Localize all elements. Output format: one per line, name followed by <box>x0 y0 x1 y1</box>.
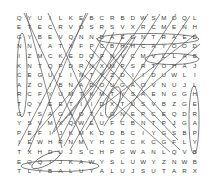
grid-cell[interactable]: R <box>138 61 148 71</box>
grid-cell[interactable]: G <box>159 138 169 148</box>
grid-cell[interactable]: G <box>179 99 189 109</box>
grid-cell[interactable]: D <box>97 99 107 109</box>
grid-cell[interactable]: Y <box>148 157 158 167</box>
grid-cell[interactable]: C <box>128 51 138 61</box>
grid-cell[interactable]: L <box>55 13 65 23</box>
grid-cell[interactable]: J <box>169 118 179 128</box>
grid-cell[interactable]: G <box>55 109 65 119</box>
grid-cell[interactable]: U <box>76 166 86 176</box>
grid-cell[interactable]: R <box>97 23 107 33</box>
grid-cell[interactable]: N <box>86 61 96 71</box>
grid-cell[interactable]: U <box>45 71 55 81</box>
grid-cell[interactable]: Q <box>45 61 55 71</box>
grid-cell[interactable]: B <box>190 157 200 167</box>
grid-cell[interactable]: A <box>138 147 148 157</box>
grid-cell[interactable]: A <box>76 80 86 90</box>
grid-cell[interactable]: I <box>66 71 76 81</box>
grid-cell[interactable]: J <box>55 157 65 167</box>
grid-cell[interactable]: M <box>159 13 169 23</box>
grid-cell[interactable]: Q <box>24 157 34 167</box>
grid-cell[interactable]: O <box>159 61 169 71</box>
grid-cell[interactable]: E <box>35 23 45 33</box>
grid-cell[interactable]: C <box>148 138 158 148</box>
grid-cell[interactable]: U <box>128 157 138 167</box>
grid-cell[interactable]: C <box>117 118 127 128</box>
grid-cell[interactable]: L <box>66 166 76 176</box>
grid-cell[interactable]: L <box>55 71 65 81</box>
grid-cell[interactable]: W <box>179 157 189 167</box>
grid-cell[interactable]: C <box>86 147 96 157</box>
grid-cell[interactable]: T <box>24 23 34 33</box>
grid-cell[interactable]: W <box>128 147 138 157</box>
grid-cell[interactable]: G <box>159 128 169 138</box>
grid-cell[interactable]: W <box>138 157 148 167</box>
grid-cell[interactable]: P <box>107 147 117 157</box>
grid-cell[interactable]: O <box>35 80 45 90</box>
grid-cell[interactable]: A <box>45 109 55 119</box>
grid-cell[interactable]: F <box>169 138 179 148</box>
grid-cell[interactable]: X <box>66 42 76 52</box>
grid-cell[interactable]: E <box>66 51 76 61</box>
grid-cell[interactable]: V <box>35 118 45 128</box>
grid-cell[interactable]: Y <box>35 42 45 52</box>
grid-cell[interactable]: N <box>24 61 34 71</box>
grid-cell[interactable]: P <box>190 128 200 138</box>
grid-cell[interactable]: U <box>107 80 117 90</box>
grid-cell[interactable]: L <box>159 51 169 61</box>
grid-cell[interactable]: L <box>190 80 200 90</box>
grid-cell[interactable]: Y <box>24 32 34 42</box>
grid-cell[interactable]: T <box>107 90 117 100</box>
grid-cell[interactable]: E <box>128 109 138 119</box>
grid-cell[interactable]: D <box>107 128 117 138</box>
grid-cell[interactable]: G <box>128 32 138 42</box>
grid-cell[interactable]: P <box>86 42 96 52</box>
grid-cell[interactable]: F <box>35 90 45 100</box>
grid-cell[interactable]: Q <box>66 32 76 42</box>
grid-cell[interactable]: B <box>107 42 117 52</box>
grid-cell[interactable]: G <box>35 71 45 81</box>
grid-cell[interactable]: Z <box>159 157 169 167</box>
grid-cell[interactable]: D <box>66 61 76 71</box>
grid-cell[interactable]: S <box>169 128 179 138</box>
grid-cell[interactable]: N <box>24 42 34 52</box>
grid-cell[interactable]: S <box>86 23 96 33</box>
grid-cell[interactable]: V <box>148 80 158 90</box>
grid-cell[interactable]: T <box>14 99 24 109</box>
grid-cell[interactable]: W <box>76 118 86 128</box>
grid-cell[interactable]: U <box>148 166 158 176</box>
grid-cell[interactable]: B <box>190 147 200 157</box>
grid-cell[interactable]: B <box>190 51 200 61</box>
grid-cell[interactable]: J <box>128 166 138 176</box>
grid-cell[interactable]: C <box>128 138 138 148</box>
grid-cell[interactable]: I <box>14 51 24 61</box>
grid-cell[interactable]: I <box>128 71 138 81</box>
grid-cell[interactable]: S <box>128 61 138 71</box>
grid-cell[interactable]: A <box>138 90 148 100</box>
grid-cell[interactable]: A <box>169 32 179 42</box>
grid-cell[interactable]: E <box>55 99 65 109</box>
grid-cell[interactable]: W <box>138 13 148 23</box>
grid-cell[interactable]: P <box>14 128 24 138</box>
grid-cell[interactable]: C <box>128 128 138 138</box>
grid-cell[interactable]: D <box>97 128 107 138</box>
grid-cell[interactable]: T <box>24 109 34 119</box>
grid-cell[interactable]: N <box>159 90 169 100</box>
grid-cell[interactable]: A <box>128 80 138 90</box>
grid-cell[interactable]: H <box>97 147 107 157</box>
grid-cell[interactable]: X <box>128 23 138 33</box>
grid-cell[interactable]: S <box>24 118 34 128</box>
grid-cell[interactable]: I <box>45 13 55 23</box>
grid-cell[interactable]: S <box>138 99 148 109</box>
grid-cell[interactable]: S <box>148 13 158 23</box>
grid-cell[interactable]: U <box>35 13 45 23</box>
grid-cell[interactable]: X <box>24 147 34 157</box>
grid-cell[interactable]: E <box>14 23 24 33</box>
grid-cell[interactable]: M <box>76 128 86 138</box>
grid-cell[interactable]: Y <box>86 138 96 148</box>
grid-cell[interactable]: M <box>66 90 76 100</box>
grid-cell[interactable]: T <box>76 90 86 100</box>
grid-cell[interactable]: A <box>148 42 158 52</box>
grid-cell[interactable]: O <box>169 13 179 23</box>
grid-cell[interactable]: E <box>190 99 200 109</box>
grid-cell[interactable]: T <box>86 109 96 119</box>
